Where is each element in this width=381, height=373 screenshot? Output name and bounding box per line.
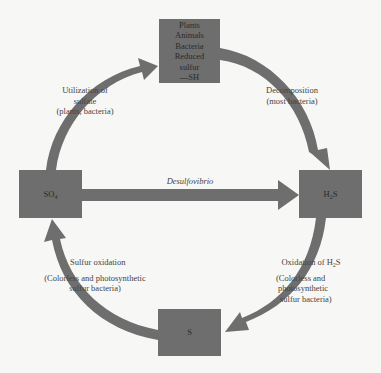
h2s-label: H2S bbox=[324, 189, 338, 200]
label-desulfovibrio: Desulfovibrio bbox=[160, 176, 220, 187]
organic-line-reduced: Reduced bbox=[175, 51, 205, 62]
node-so4: SO4 bbox=[19, 170, 82, 218]
node-s: S bbox=[158, 309, 221, 356]
organic-line-bacteria: Bacteria bbox=[175, 41, 203, 52]
organic-line-plants: Plants bbox=[179, 20, 200, 31]
organic-line-sh: —SH bbox=[180, 72, 199, 83]
organic-line-sulfur: sulfur bbox=[180, 62, 200, 73]
organic-line-animals: Animals bbox=[175, 30, 204, 41]
label-decomposition: Decomposition (most bacteria) bbox=[262, 85, 322, 106]
s-label: S bbox=[187, 327, 192, 338]
so4-label: SO4 bbox=[44, 189, 58, 200]
arrow-decomposition bbox=[220, 48, 330, 170]
node-organic-sulfur: Plants Animals Bacteria Reduced sulfur —… bbox=[159, 19, 220, 83]
label-oxidation-h2s: Oxidation of H2S (Colorless and photosyn… bbox=[268, 257, 354, 304]
label-sulfur-oxidation: Sulfur oxidation (Colorless and photosyn… bbox=[40, 257, 150, 294]
node-h2s: H2S bbox=[299, 170, 362, 218]
label-utilization: Utilization of sulfate (plants, bacteria… bbox=[55, 85, 115, 117]
